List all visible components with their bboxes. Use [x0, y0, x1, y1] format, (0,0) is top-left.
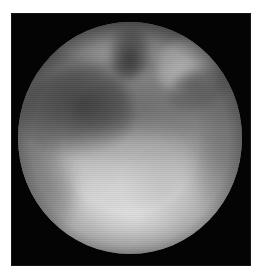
top-notch-region	[107, 25, 154, 82]
bright-tissue-region	[32, 134, 232, 244]
mid-shadow-region	[70, 74, 238, 140]
top-highlight-region	[44, 22, 194, 62]
lobe-shadow-region	[163, 61, 234, 118]
image-frame	[11, 13, 251, 266]
page-canvas	[0, 0, 261, 274]
figure-caption	[11, 268, 251, 274]
bottom-glint-region	[96, 208, 178, 242]
dark-crescent-region	[18, 60, 138, 162]
endoscopic-field-of-view	[18, 22, 242, 254]
tissue-mottle-texture	[18, 22, 242, 254]
scanline-texture	[18, 22, 242, 254]
tissue-ridge-region	[38, 140, 224, 164]
right-rim-shadow-region	[190, 118, 242, 210]
lens-vignette	[18, 22, 242, 254]
bright-lobe-region	[156, 38, 222, 98]
left-rim-shadow-region	[18, 142, 76, 238]
